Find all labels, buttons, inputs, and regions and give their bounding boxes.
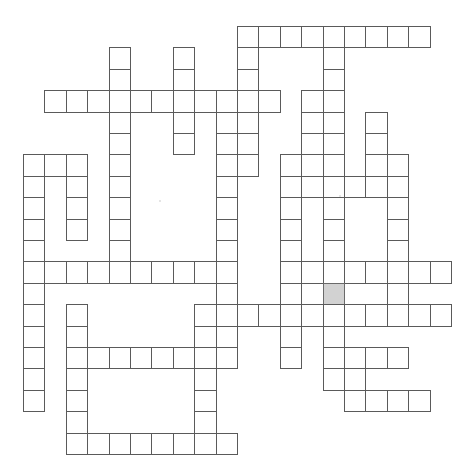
crossword-cell[interactable]	[23, 390, 45, 412]
crossword-cell[interactable]	[109, 176, 131, 198]
crossword-cell[interactable]	[323, 133, 345, 155]
crossword-cell[interactable]	[365, 176, 387, 198]
crossword-cell[interactable]	[66, 197, 88, 219]
crossword-cell[interactable]	[387, 347, 409, 369]
crossword-cell[interactable]	[301, 133, 323, 155]
crossword-cell[interactable]	[173, 133, 195, 155]
crossword-cell[interactable]	[301, 304, 323, 326]
crossword-cell[interactable]	[194, 90, 216, 112]
crossword-cell[interactable]	[151, 261, 173, 283]
crossword-cell[interactable]	[301, 90, 323, 112]
crossword-cell[interactable]	[66, 304, 88, 326]
crossword-cell[interactable]	[216, 133, 238, 155]
crossword-cell[interactable]	[216, 283, 238, 305]
crossword-cell[interactable]	[66, 154, 88, 176]
crossword-cell[interactable]	[301, 112, 323, 134]
crossword-cell[interactable]	[365, 347, 387, 369]
crossword-cell[interactable]	[23, 154, 45, 176]
crossword-cell[interactable]	[323, 261, 345, 283]
crossword-cell[interactable]	[365, 154, 387, 176]
crossword-cell[interactable]	[173, 90, 195, 112]
crossword-cell[interactable]	[323, 368, 345, 390]
crossword-cell[interactable]	[408, 261, 430, 283]
crossword-cell[interactable]	[301, 26, 323, 48]
crossword-cell[interactable]	[216, 154, 238, 176]
crossword-cell[interactable]	[323, 90, 345, 112]
crossword-cell[interactable]	[430, 304, 452, 326]
crossword-cell[interactable]	[280, 219, 302, 241]
crossword-cell[interactable]	[387, 304, 409, 326]
crossword-cell[interactable]	[237, 154, 259, 176]
crossword-cell[interactable]	[216, 219, 238, 241]
crossword-cell[interactable]	[365, 261, 387, 283]
crossword-cell[interactable]	[109, 261, 131, 283]
crossword-cell[interactable]	[365, 304, 387, 326]
crossword-cell[interactable]	[323, 283, 345, 305]
crossword-cell[interactable]	[237, 69, 259, 91]
crossword-cell[interactable]	[216, 433, 238, 455]
crossword-cell[interactable]	[194, 390, 216, 412]
crossword-cell[interactable]	[344, 390, 366, 412]
crossword-cell[interactable]	[280, 304, 302, 326]
crossword-cell[interactable]	[151, 433, 173, 455]
crossword-cell[interactable]	[344, 176, 366, 198]
crossword-cell[interactable]	[23, 219, 45, 241]
crossword-cell[interactable]	[87, 90, 109, 112]
crossword-cell[interactable]	[130, 90, 152, 112]
crossword-cell[interactable]	[173, 261, 195, 283]
crossword-cell[interactable]	[109, 47, 131, 69]
crossword-cell[interactable]	[216, 197, 238, 219]
crossword-cell[interactable]	[387, 240, 409, 262]
crossword-cell[interactable]	[109, 69, 131, 91]
crossword-cell[interactable]	[216, 112, 238, 134]
crossword-cell[interactable]	[23, 197, 45, 219]
crossword-cell[interactable]	[365, 26, 387, 48]
crossword-cell[interactable]	[237, 47, 259, 69]
crossword-cell[interactable]	[323, 112, 345, 134]
crossword-cell[interactable]	[66, 90, 88, 112]
crossword-cell[interactable]	[173, 47, 195, 69]
crossword-cell[interactable]	[216, 261, 238, 283]
crossword-cell[interactable]	[323, 240, 345, 262]
crossword-cell[interactable]	[194, 261, 216, 283]
crossword-cell[interactable]	[87, 433, 109, 455]
crossword-cell[interactable]	[109, 240, 131, 262]
crossword-cell[interactable]	[109, 90, 131, 112]
crossword-cell[interactable]	[365, 133, 387, 155]
crossword-cell[interactable]	[23, 176, 45, 198]
crossword-cell[interactable]	[87, 261, 109, 283]
crossword-cell[interactable]	[301, 176, 323, 198]
crossword-cell[interactable]	[408, 304, 430, 326]
crossword-cell[interactable]	[280, 154, 302, 176]
crossword-cell[interactable]	[23, 283, 45, 305]
crossword-cell[interactable]	[344, 261, 366, 283]
crossword-cell[interactable]	[365, 112, 387, 134]
crossword-cell[interactable]	[344, 26, 366, 48]
crossword-cell[interactable]	[387, 176, 409, 198]
crossword-cell[interactable]	[216, 347, 238, 369]
crossword-cell[interactable]	[237, 112, 259, 134]
crossword-cell[interactable]	[323, 304, 345, 326]
crossword-cell[interactable]	[66, 368, 88, 390]
crossword-cell[interactable]	[173, 112, 195, 134]
crossword-cell[interactable]	[194, 326, 216, 348]
crossword-cell[interactable]	[280, 326, 302, 348]
crossword-cell[interactable]	[23, 240, 45, 262]
crossword-cell[interactable]	[365, 390, 387, 412]
crossword-cell[interactable]	[194, 304, 216, 326]
crossword-cell[interactable]	[237, 26, 259, 48]
crossword-cell[interactable]	[109, 154, 131, 176]
crossword-cell[interactable]	[66, 347, 88, 369]
crossword-cell[interactable]	[66, 176, 88, 198]
crossword-cell[interactable]	[280, 283, 302, 305]
crossword-cell[interactable]	[151, 347, 173, 369]
crossword-cell[interactable]	[387, 219, 409, 241]
crossword-cell[interactable]	[323, 176, 345, 198]
crossword-cell[interactable]	[216, 240, 238, 262]
crossword-cell[interactable]	[23, 304, 45, 326]
crossword-cell[interactable]	[258, 304, 280, 326]
crossword-cell[interactable]	[216, 326, 238, 348]
crossword-cell[interactable]	[301, 154, 323, 176]
crossword-cell[interactable]	[323, 326, 345, 348]
crossword-cell[interactable]	[109, 112, 131, 134]
